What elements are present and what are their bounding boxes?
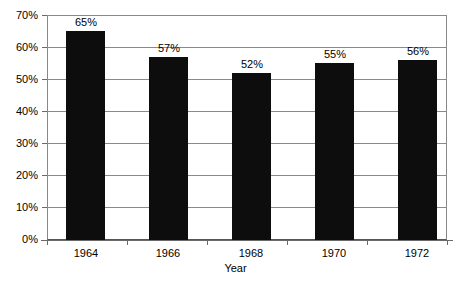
bar-value-1970: 55% — [305, 48, 365, 60]
x-tick-mark-3 — [287, 241, 288, 245]
x-axis-line — [41, 240, 453, 241]
x-tick-label-1964: 1964 — [51, 247, 121, 259]
bar-1966[interactable] — [149, 57, 188, 240]
bar-value-1964: 65% — [56, 16, 116, 28]
x-tick-mark-5 — [447, 241, 448, 245]
x-tick-mark-2 — [207, 241, 208, 245]
x-tick-label-1966: 1966 — [133, 247, 203, 259]
bar-1972[interactable] — [398, 60, 437, 240]
x-axis-title: Year — [0, 262, 471, 274]
x-tick-mark-1 — [127, 241, 128, 245]
bar-1964[interactable] — [66, 31, 105, 240]
bar-value-1968: 52% — [222, 58, 282, 70]
x-tick-label-1972: 1972 — [382, 247, 452, 259]
x-tick-mark-0 — [47, 241, 48, 245]
bars-layer: 65% 57% 52% 55% 56% — [0, 0, 471, 287]
x-tick-label-1970: 1970 — [299, 247, 369, 259]
bar-chart: 70% 60% 50% 40% 30% 20% 10% 0% 65% 57% 5… — [0, 0, 471, 287]
x-tick-mark-4 — [367, 241, 368, 245]
bar-1968[interactable] — [232, 73, 271, 240]
x-tick-label-1968: 1968 — [216, 247, 286, 259]
bar-1970[interactable] — [315, 63, 354, 240]
bar-value-1966: 57% — [139, 42, 199, 54]
bar-value-1972: 56% — [388, 45, 448, 57]
